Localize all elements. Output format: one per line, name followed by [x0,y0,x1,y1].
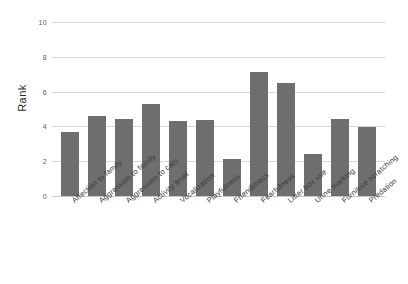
x-axis-labels: Affection to familyAggression to familyA… [52,198,385,282]
bar-slot [192,22,219,196]
bar-slot [219,22,246,196]
y-axis-tick-label: 4 [7,123,47,130]
bar-slot [57,22,84,196]
bar-chart-figure: Rank 0246810 Affection to familyAggressi… [0,0,408,284]
y-axis-ticks: 0246810 [0,22,47,196]
y-axis-tick-label: 8 [7,53,47,60]
y-axis-tick-label: 0 [7,193,47,200]
y-axis-tick-label: 2 [7,158,47,165]
bar-slot [245,22,272,196]
bar[interactable] [61,132,79,196]
bar-slot [272,22,299,196]
y-axis-tick-label: 10 [7,19,47,26]
y-axis-tick-label: 6 [7,88,47,95]
